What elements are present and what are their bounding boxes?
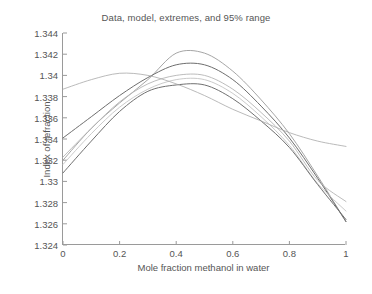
- y-tick-label: 1.328: [34, 197, 58, 208]
- series-layer: [63, 33, 346, 245]
- series-line: [63, 74, 346, 201]
- chart-title: Data, model, extremes, and 95% range: [0, 12, 372, 23]
- series-line: [63, 73, 346, 146]
- y-tick-label: 1.34: [40, 70, 59, 81]
- y-tick-label: 1.326: [34, 218, 58, 229]
- x-tick-label: 0.4: [170, 248, 183, 259]
- x-tick-label: 0: [60, 248, 65, 259]
- series-line: [63, 78, 346, 211]
- caption-sliver: [0, 285, 372, 294]
- y-tick-label: 1.324: [34, 240, 58, 251]
- y-tick-label: 1.336: [34, 112, 58, 123]
- y-tick-label: 1.334: [34, 134, 58, 145]
- series-line: [63, 63, 346, 222]
- series-line: [63, 84, 346, 220]
- x-tick-label: 0.8: [283, 248, 296, 259]
- y-tick-label: 1.332: [34, 155, 58, 166]
- x-tick-label: 0.2: [113, 248, 126, 259]
- x-axis-label: Mole fraction methanol in water: [62, 262, 345, 273]
- x-tick-label: 1: [343, 248, 348, 259]
- plot-area: 1.3241.3261.3281.331.3321.3341.3361.3381…: [62, 33, 345, 245]
- chart-figure: Data, model, extremes, and 95% range Ind…: [0, 0, 372, 294]
- y-tick-label: 1.344: [34, 28, 58, 39]
- y-tick-label: 1.33: [40, 176, 59, 187]
- y-tick-label: 1.342: [34, 49, 58, 60]
- y-tick-label: 1.338: [34, 91, 58, 102]
- x-tick-label: 0.6: [226, 248, 239, 259]
